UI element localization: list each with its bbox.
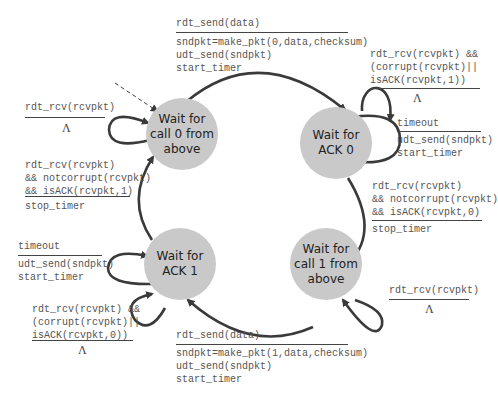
action-label: udt_send(sndpkt) start_timer xyxy=(18,258,114,284)
state-wait-call-0: Wait forcall 0 fromabove xyxy=(146,98,218,170)
arrow-s2-self xyxy=(343,300,382,331)
state-label: Wait for xyxy=(313,128,360,143)
state-wait-ack-1: Wait forACK 1 xyxy=(144,228,216,300)
state-label: Wait for xyxy=(157,249,204,264)
lambda-label: Λ xyxy=(78,343,87,358)
action-label: sndpkt=make_pkt(0,data,checksum) udt_sen… xyxy=(176,36,368,75)
arrow-s0-self xyxy=(109,117,150,143)
event-label: rdt_rcv(rcvpkt) && notcorrupt(rcvpkt) &&… xyxy=(372,180,498,219)
state-label: Wait for xyxy=(294,242,358,257)
action-label: udt_send(sndpkt) start_timer xyxy=(397,134,493,160)
event-label: timeout xyxy=(18,240,60,253)
initial-arrow xyxy=(115,83,157,111)
divider xyxy=(397,131,481,132)
state-label: ACK 1 xyxy=(157,264,204,279)
action-label: sndpkt=make_pkt(1,data,checksum) udt_sen… xyxy=(176,347,368,386)
lambda-label: Λ xyxy=(413,91,422,106)
divider xyxy=(389,299,469,300)
divider xyxy=(25,196,130,197)
state-label: call 0 from xyxy=(150,127,214,142)
event-label: rdt_rcv(rcvpkt) && notcorrupt(rcvpkt) &&… xyxy=(25,159,151,198)
action-label: stop_timer xyxy=(372,223,432,236)
divider xyxy=(25,117,105,118)
state-label: Wait for xyxy=(150,112,214,127)
state-label: above xyxy=(150,142,214,157)
divider xyxy=(372,220,482,221)
divider xyxy=(32,340,133,341)
divider xyxy=(176,344,348,345)
event-label: rdt_rcv(rcvpkt) xyxy=(25,101,115,114)
state-wait-ack-0: Wait forACK 0 xyxy=(300,107,372,179)
state-label: above xyxy=(294,272,358,287)
lambda-label: Λ xyxy=(62,121,71,136)
divider xyxy=(18,255,102,256)
state-label: ACK 0 xyxy=(313,143,360,158)
action-label: stop_timer xyxy=(25,200,85,213)
event-label: rdt_send(data) xyxy=(176,17,260,30)
event-label: timeout xyxy=(397,117,439,130)
divider xyxy=(176,32,348,33)
event-label: rdt_rcv(rcvpkt) && (corrupt(rcvpkt)|| is… xyxy=(32,303,140,342)
arrow-s0-to-s1 xyxy=(186,73,345,110)
state-label: call 1 from xyxy=(294,257,358,272)
fsm-diagram: Wait forcall 0 fromabove Wait forACK 0 W… xyxy=(0,0,498,401)
state-wait-call-1: Wait forcall 1 fromabove xyxy=(290,228,362,300)
divider xyxy=(370,88,480,89)
event-label: rdt_rcv(rcvpkt) xyxy=(389,284,479,297)
lambda-label: Λ xyxy=(425,302,434,317)
event-label: rdt_send(data) xyxy=(176,329,260,342)
event-label: rdt_rcv(rcvpkt) && (corrupt(rcvpkt)|| is… xyxy=(370,48,478,87)
